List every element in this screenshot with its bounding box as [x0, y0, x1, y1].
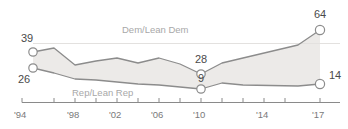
marker-rep-2017: [315, 79, 324, 88]
x-tick-label-2017: '17: [312, 110, 324, 120]
chart-container: 39 26 28 9 64 14 Dem/Lean Dem Rep/Lean R…: [0, 0, 348, 129]
series-annotation-rep: Rep/Lean Rep: [72, 88, 133, 98]
x-tick-label-1998: '98: [67, 110, 79, 120]
marker-rep-2010: [197, 85, 205, 93]
marker-dem-2017: [315, 25, 324, 34]
value-label-dem-2017: 64: [314, 9, 326, 20]
x-tick-label-2014: '14: [256, 110, 268, 120]
value-label-dem-1994: 39: [21, 33, 33, 44]
series-annotation-dem: Dem/Lean Dem: [122, 25, 189, 35]
chart-plot-area: [0, 0, 348, 129]
x-tick-label-2010: '10: [193, 110, 205, 120]
marker-dem-1994: [29, 48, 37, 56]
x-axis-ticks: [22, 98, 320, 103]
marker-rep-1994: [29, 64, 37, 72]
value-label-rep-2010: 9: [198, 73, 204, 84]
x-tick-label-1994: '94: [14, 110, 26, 120]
x-tick-label-2002: '02: [109, 110, 121, 120]
area-between-series: [33, 30, 320, 89]
x-tick-label-2006: '06: [151, 110, 163, 120]
value-label-rep-1994: 26: [18, 74, 30, 85]
value-label-dem-2010: 28: [195, 54, 207, 65]
value-label-rep-2017: 14: [329, 70, 341, 81]
